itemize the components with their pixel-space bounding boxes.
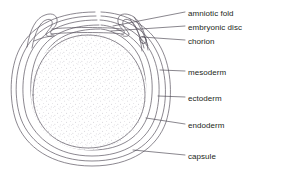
label-chorion: chorion bbox=[188, 37, 215, 46]
label-embryonic-disc: embryonic disc bbox=[188, 23, 242, 32]
leader-ectoderm bbox=[158, 96, 185, 97]
label-amniotic-fold: amniotic fold bbox=[188, 9, 234, 18]
leader-capsule bbox=[133, 150, 185, 155]
label-mesoderm: mesoderm bbox=[188, 68, 226, 77]
embryonic-disc-band bbox=[52, 28, 122, 30]
diagram-page: amniotic fold embryonic disc chorion mes… bbox=[0, 0, 282, 180]
label-endoderm: endoderm bbox=[188, 121, 224, 130]
label-ectoderm: ectoderm bbox=[188, 94, 222, 103]
label-capsule: capsule bbox=[188, 152, 216, 161]
